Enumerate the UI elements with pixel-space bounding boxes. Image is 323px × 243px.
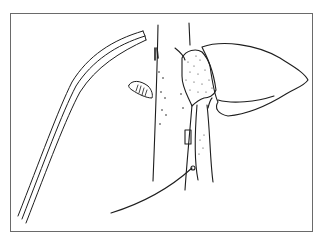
lozenge-object: [129, 81, 153, 98]
vessel-dots: [158, 71, 184, 125]
vessel-right: [175, 23, 213, 190]
sketch-illustration: [0, 0, 323, 243]
vessel-left: [153, 25, 158, 181]
stippled-body: [182, 50, 216, 106]
curved-tube: [18, 31, 146, 223]
large-lobe: [202, 44, 308, 116]
